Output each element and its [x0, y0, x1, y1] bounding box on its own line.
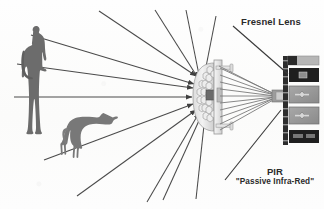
pir-label: PIR: [240, 166, 310, 177]
pir-expansion-label: "Passive Infra-Red": [226, 177, 324, 186]
fresnel-lens-label: Fresnel Lens: [241, 16, 301, 27]
fresnel-leader-line: [233, 26, 288, 74]
pir-component-4: [289, 107, 319, 124]
pir-sensor-board: [283, 56, 319, 145]
human-silhouette: [21, 26, 46, 134]
pir-component-2: [289, 68, 319, 82]
lens-housing-bracket: [214, 60, 233, 134]
pir-component-5: [289, 130, 319, 143]
pir-component-1: [288, 56, 319, 65]
pir-component-3: [289, 86, 319, 103]
figure-canvas: Fresnel Lens PIR "Passive Infra-Red": [0, 0, 324, 209]
incoming-infrared-rays: [14, 10, 216, 202]
focal-beam: [272, 90, 284, 102]
focused-rays: [219, 66, 275, 130]
